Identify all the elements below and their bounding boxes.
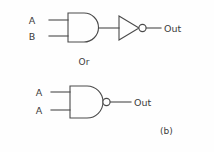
circuit-svg: A B Out Or A A Out (b) bbox=[0, 0, 214, 152]
not-gate-bubble bbox=[139, 24, 146, 31]
equivalence-connector-label: Or bbox=[79, 57, 90, 67]
top-input-label-a: A bbox=[29, 15, 36, 26]
top-input-label-b: B bbox=[29, 31, 36, 42]
figure-part-label: (b) bbox=[160, 126, 173, 136]
nand-gate-bubble bbox=[103, 98, 110, 105]
bottom-output-label: Out bbox=[134, 97, 151, 108]
not-gate-triangle bbox=[119, 16, 139, 40]
bottom-input-label-a2: A bbox=[36, 105, 43, 116]
nand-gate-body bbox=[70, 86, 103, 118]
top-output-label: Out bbox=[164, 23, 181, 34]
and-gate-body bbox=[68, 13, 98, 42]
bottom-circuit-group: A A Out bbox=[36, 86, 152, 118]
logic-diagram: A B Out Or A A Out (b) bbox=[0, 0, 214, 152]
top-circuit-group: A B Out bbox=[29, 13, 182, 42]
bottom-input-label-a1: A bbox=[36, 87, 43, 98]
